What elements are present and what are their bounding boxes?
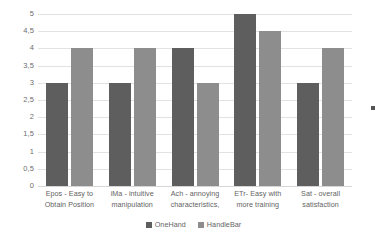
bar (322, 48, 344, 186)
plot-area (38, 14, 352, 186)
x-axis-label-line: iMa - intuitive (101, 189, 164, 200)
chart-legend: OneHandHandleBar (0, 221, 387, 228)
bar-group (38, 14, 101, 186)
bar (297, 83, 319, 186)
y-tick-label: 1,5 (0, 131, 34, 139)
axis-baseline (38, 186, 352, 187)
y-tick-label: 1 (0, 148, 34, 156)
y-tick-label: 4 (0, 45, 34, 53)
bar-group (101, 14, 164, 186)
bar (234, 14, 256, 186)
x-axis-label-line: Ach - annoying (164, 189, 227, 200)
bar-group (289, 14, 352, 186)
bar (71, 48, 93, 186)
legend-item[interactable]: OneHand (146, 221, 186, 228)
x-axis-label: iMa - intuitivemanipulation (101, 189, 164, 210)
y-tick-label: 0,5 (0, 165, 34, 173)
x-axis-category-labels: Epos - Easy toObtain PositioniMa - intui… (38, 189, 352, 215)
x-axis-label-line: satisfaction (289, 200, 352, 211)
legend-label: HandleBar (207, 221, 241, 228)
x-axis-label: Ach - annoyingcharacteristics, (164, 189, 227, 210)
x-axis-label-line: manipulation (101, 200, 164, 211)
x-axis-label: ETr- Easy withmore training (226, 189, 289, 210)
bar (197, 83, 219, 186)
y-tick-label: 4,5 (0, 27, 34, 35)
bar (134, 48, 156, 186)
x-axis-label-line: characteristics, (164, 200, 227, 211)
bar-group (226, 14, 289, 186)
bar (46, 83, 68, 186)
x-axis-label: Sat - overallsatisfaction (289, 189, 352, 210)
y-tick-label: 2 (0, 113, 34, 121)
y-tick-label: 3 (0, 79, 34, 87)
scan-artifact-dot (371, 106, 375, 110)
legend-label: OneHand (155, 221, 186, 228)
y-tick-label: 5 (0, 10, 34, 18)
x-axis-label-line: Epos - Easy to (38, 189, 101, 200)
bar-group (164, 14, 227, 186)
bar (259, 31, 281, 186)
bar (172, 48, 194, 186)
x-axis-label-line: Obtain Position (38, 200, 101, 211)
x-axis-label-line: more training (226, 200, 289, 211)
y-tick-label: 3,5 (0, 62, 34, 70)
bar-chart: 00,511,522,533,544,55 Epos - Easy toObta… (0, 0, 387, 238)
legend-item[interactable]: HandleBar (198, 221, 241, 228)
legend-swatch-icon (198, 222, 204, 228)
x-axis-label: Epos - Easy toObtain Position (38, 189, 101, 210)
y-tick-label: 2,5 (0, 96, 34, 104)
y-axis: 00,511,522,533,544,55 (0, 14, 34, 186)
bar (109, 83, 131, 186)
x-axis-label-line: ETr- Easy with (226, 189, 289, 200)
y-tick-label: 0 (0, 182, 34, 190)
x-axis-label-line: Sat - overall (289, 189, 352, 200)
legend-swatch-icon (146, 222, 152, 228)
